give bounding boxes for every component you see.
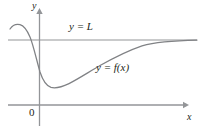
y-axis-arrowhead-icon bbox=[36, 8, 42, 14]
asymptote-label: y = L bbox=[69, 21, 93, 32]
limit-graph-figure: y x y = L y = f(x) 0 bbox=[0, 0, 200, 130]
function-label: y = f(x) bbox=[96, 62, 129, 73]
y-axis-label: y bbox=[32, 1, 36, 11]
origin-label: 0 bbox=[29, 107, 35, 118]
function-curve bbox=[10, 24, 197, 87]
x-axis-arrowhead-icon bbox=[183, 102, 189, 108]
x-axis-label: x bbox=[187, 112, 191, 122]
